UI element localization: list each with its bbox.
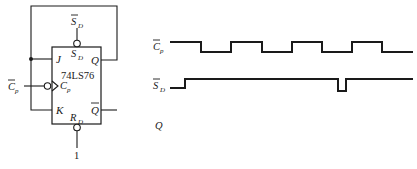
sd-waveform xyxy=(170,79,413,91)
jk-flipflop-diagram: J K Q Q 74LS76 C p S D R D S D C p 1 C p… xyxy=(0,0,417,169)
pin-sd-label: S xyxy=(71,48,77,59)
clock-edge-triangle-icon xyxy=(52,81,58,91)
cp-bar-sub: p xyxy=(14,87,19,95)
pin-rd-label: R xyxy=(69,112,77,123)
rd-value-label: 1 xyxy=(74,150,79,161)
pin-k-label: K xyxy=(55,104,64,116)
sd-bar-label: S xyxy=(71,16,77,27)
pin-rd-sub: D xyxy=(77,118,83,126)
sd-inversion-bubble xyxy=(74,40,81,47)
junction-dot xyxy=(29,57,33,61)
clock-inversion-bubble xyxy=(44,83,50,89)
pin-q-label: Q xyxy=(91,54,99,66)
pin-sd-sub: D xyxy=(77,54,83,62)
sd-bar-sub: D xyxy=(77,22,83,30)
pin-j-label: J xyxy=(56,53,62,65)
wave-q-label: Q xyxy=(155,120,163,131)
cp-waveform xyxy=(170,42,413,52)
wave-sd-sub: D xyxy=(159,86,165,94)
wave-sd-label: S xyxy=(153,80,159,91)
pin-cp-sub: p xyxy=(66,86,71,94)
wave-cp-sub: p xyxy=(159,47,164,55)
pin-qbar-label: Q xyxy=(91,104,99,116)
